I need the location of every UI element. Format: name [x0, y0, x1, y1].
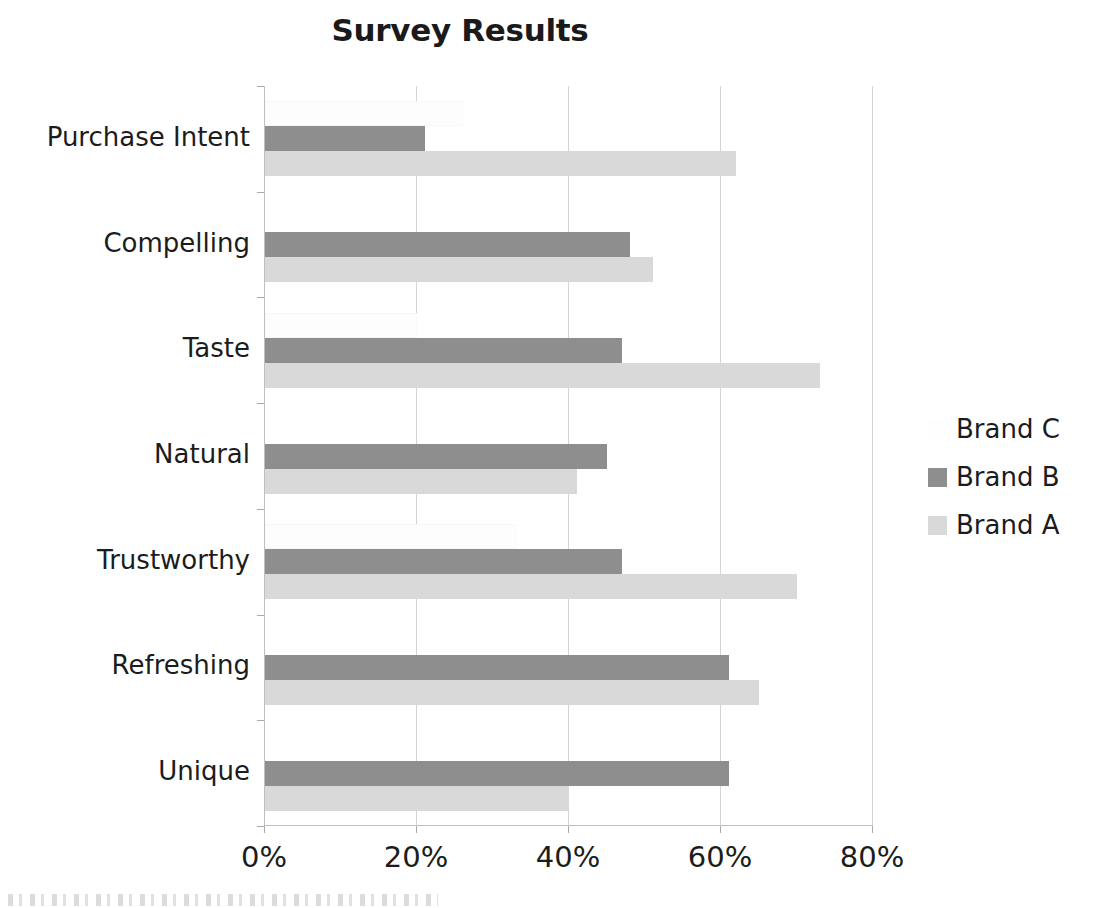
bar [265, 549, 622, 574]
y-tick-mark [257, 403, 264, 404]
legend-swatch-icon [928, 468, 947, 487]
bar [265, 151, 736, 176]
bar [265, 786, 569, 811]
category-label: Trustworthy [0, 545, 250, 575]
legend-label: Brand B [956, 462, 1060, 492]
y-tick-mark [257, 826, 264, 827]
bar [265, 444, 607, 469]
chart-page: Survey Results Purchase IntentCompelling… [0, 0, 1096, 908]
bar-group [265, 524, 872, 599]
legend-label: Brand A [956, 510, 1060, 540]
bar [265, 761, 729, 786]
y-tick-mark [257, 297, 264, 298]
chart-legend: Brand CBrand BBrand A [928, 405, 1096, 549]
legend-swatch-icon [928, 420, 947, 439]
legend-item[interactable]: Brand B [928, 453, 1096, 501]
x-tick-mark [264, 826, 265, 833]
bar [265, 363, 820, 388]
x-tick-label: 80% [827, 840, 917, 874]
bar [265, 469, 577, 494]
bar [265, 101, 463, 126]
category-label: Taste [0, 333, 250, 363]
x-tick-label: 60% [675, 840, 765, 874]
x-tick-label: 20% [371, 840, 461, 874]
bar [265, 313, 417, 338]
legend-label: Brand C [956, 414, 1060, 444]
bar-group [265, 630, 872, 705]
x-tick-mark [720, 826, 721, 833]
category-label: Natural [0, 439, 250, 469]
legend-swatch-icon [928, 516, 947, 535]
legend-item[interactable]: Brand C [928, 405, 1096, 453]
bar-group [265, 313, 872, 388]
x-tick-label: 0% [219, 840, 309, 874]
bar [265, 232, 630, 257]
y-tick-mark [257, 86, 264, 87]
y-tick-mark [257, 615, 264, 616]
bar [265, 655, 729, 680]
x-tick-mark [568, 826, 569, 833]
x-tick-label: 40% [523, 840, 613, 874]
gridline-80 [872, 86, 873, 826]
bar [265, 680, 759, 705]
bar [265, 126, 425, 151]
y-tick-mark [257, 509, 264, 510]
y-tick-mark [257, 192, 264, 193]
bar [265, 574, 797, 599]
bar [265, 257, 653, 282]
y-tick-mark [257, 720, 264, 721]
bar-group [265, 419, 872, 494]
bar [265, 524, 516, 549]
category-label: Unique [0, 756, 250, 786]
legend-item[interactable]: Brand A [928, 501, 1096, 549]
plot-area [264, 86, 872, 826]
bar-group [265, 101, 872, 176]
bar-group [265, 736, 872, 811]
bar-group [265, 207, 872, 282]
bar [265, 338, 622, 363]
chart-title: Survey Results [0, 12, 920, 48]
category-label: Compelling [0, 228, 250, 258]
scan-artifact-strip [8, 894, 438, 906]
x-tick-mark [416, 826, 417, 833]
category-label: Purchase Intent [0, 122, 250, 152]
category-label: Refreshing [0, 650, 250, 680]
x-tick-mark [872, 826, 873, 833]
